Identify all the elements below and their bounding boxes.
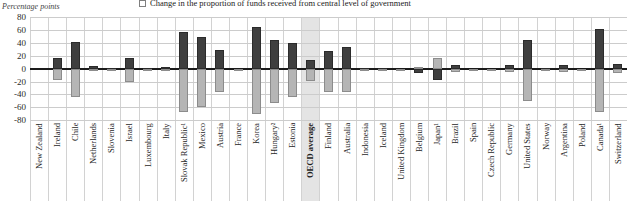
bar-light-series-italy bbox=[161, 69, 170, 71]
bar-dark-series-canada- bbox=[595, 29, 604, 68]
x-axis-label-italy: Italy bbox=[157, 123, 175, 200]
x-axis-label-ireland: Ireland bbox=[48, 123, 66, 200]
x-axis-label-slovenia: Slovenia bbox=[102, 123, 120, 200]
y-axis-tick-label: -80 bbox=[0, 115, 26, 125]
bar-light-series-united-kingdom bbox=[396, 69, 405, 71]
x-axis-label-united-kingdom: United Kingdom bbox=[392, 123, 410, 200]
y-axis-tick-label: 0 bbox=[0, 64, 26, 74]
bar-light-series-korea bbox=[252, 69, 261, 114]
bar-dark-series-chile bbox=[71, 42, 80, 68]
x-axis-label-united-states: United States bbox=[518, 123, 536, 200]
bar-light-series-canada- bbox=[595, 69, 604, 112]
y-axis-tick-label: -60 bbox=[0, 102, 26, 112]
bar-dark-series-hungary- bbox=[270, 40, 279, 69]
x-axis-label-switzerland: Switzerland bbox=[609, 123, 627, 200]
bar-dark-series-ireland bbox=[53, 58, 62, 68]
horizontal-gridline bbox=[30, 120, 627, 121]
legend-label: Change in the proportion of funds receiv… bbox=[150, 0, 411, 8]
bar-light-series-hungary- bbox=[270, 69, 279, 103]
chart-screenshot: Percentage points Change in the proporti… bbox=[0, 0, 627, 201]
bar-light-series-luxembourg bbox=[143, 69, 152, 71]
legend-swatch-icon bbox=[139, 0, 146, 7]
x-axis-label-israel: Israel bbox=[120, 123, 138, 200]
bar-light-series-united-states bbox=[523, 69, 532, 101]
bar-light-series-finland bbox=[324, 69, 333, 92]
bar-dark-series-oecd-average bbox=[306, 60, 315, 69]
bar-light-series-slovak-republic- bbox=[179, 69, 188, 112]
bar-light-series-netherlands bbox=[89, 69, 98, 72]
bar-light-series-france bbox=[234, 69, 243, 71]
x-axis-label-australia: Australia bbox=[338, 123, 356, 200]
x-axis-label-mexico: Mexico bbox=[193, 123, 211, 200]
bar-light-series-brazil bbox=[451, 69, 460, 73]
x-axis-label-indonesia: Indonesia bbox=[356, 123, 374, 200]
bar-light-series-estonia bbox=[288, 69, 297, 97]
x-axis-label-belgium: Belgium bbox=[410, 123, 428, 200]
bar-light-series-austria bbox=[215, 69, 224, 92]
x-axis-label-canada-: Canada¹ bbox=[591, 123, 609, 200]
x-axis-label-new-zealand: New Zealand bbox=[30, 123, 48, 200]
x-axis-label-luxembourg: Luxembourg bbox=[139, 123, 157, 200]
bar-light-series-oecd-average bbox=[306, 69, 315, 81]
bar-light-series-ireland bbox=[53, 69, 62, 81]
bar-light-series-poland bbox=[577, 69, 586, 71]
bar-light-series-norway bbox=[541, 69, 550, 71]
x-axis-label-estonia: Estonia bbox=[283, 123, 301, 200]
bar-light-series-japan- bbox=[433, 58, 442, 69]
x-axis-label-korea: Korea bbox=[247, 123, 265, 200]
horizontal-gridline bbox=[30, 17, 627, 18]
x-axis-label-japan-: Japan¹ bbox=[428, 123, 446, 200]
horizontal-gridline bbox=[30, 43, 627, 44]
x-axis-label-hungary-: Hungary² bbox=[265, 123, 283, 200]
bar-light-series-germany bbox=[505, 69, 514, 73]
bar-light-series-spain bbox=[469, 69, 478, 71]
bar-dark-series-australia bbox=[342, 47, 351, 69]
y-axis-tick-label: 80 bbox=[0, 12, 26, 22]
x-axis-label-brazil: Brazil bbox=[446, 123, 464, 200]
bar-dark-series-korea bbox=[252, 27, 261, 69]
x-axis-label-france: France bbox=[229, 123, 247, 200]
y-axis-tick-label: 40 bbox=[0, 38, 26, 48]
chart-legend: Change in the proportion of funds receiv… bbox=[139, 0, 411, 8]
x-axis-label-argentina: Argentina bbox=[555, 123, 573, 200]
x-axis-label-poland: Poland bbox=[573, 123, 591, 200]
bar-light-series-israel bbox=[125, 69, 134, 83]
bar-dark-series-japan- bbox=[433, 69, 442, 80]
x-axis-label-slovak-republic-: Slovak Republic¹ bbox=[175, 123, 193, 200]
bar-light-series-slovenia bbox=[107, 69, 116, 71]
x-axis-label-finland: Finland bbox=[319, 123, 337, 200]
bar-light-series-indonesia bbox=[360, 69, 369, 71]
y-axis-tick-label: -20 bbox=[0, 77, 26, 87]
y-axis-tick-label: 20 bbox=[0, 51, 26, 61]
x-axis-label-chile: Chile bbox=[66, 123, 84, 200]
x-axis-label-czech-republic: Czech Republic bbox=[482, 123, 500, 200]
horizontal-gridline bbox=[30, 30, 627, 31]
bar-light-series-australia bbox=[342, 69, 351, 92]
x-axis-label-austria: Austria bbox=[211, 123, 229, 200]
x-axis-label-iceland: Iceland bbox=[374, 123, 392, 200]
bar-light-series-iceland bbox=[378, 69, 387, 71]
horizontal-gridline bbox=[30, 107, 627, 108]
bar-dark-series-mexico bbox=[197, 37, 206, 69]
x-axis-label-spain: Spain bbox=[464, 123, 482, 200]
x-axis-label-germany: Germany bbox=[500, 123, 518, 200]
bar-light-series-mexico bbox=[197, 69, 206, 107]
bar-light-series-chile bbox=[71, 69, 80, 97]
bar-dark-series-united-states bbox=[523, 40, 532, 68]
bar-light-series-czech-republic bbox=[487, 69, 496, 71]
y-axis-units-label: Percentage points bbox=[2, 2, 60, 11]
x-axis-label-netherlands: Netherlands bbox=[84, 123, 102, 200]
y-axis-tick-label: 60 bbox=[0, 25, 26, 35]
bar-light-series-argentina bbox=[559, 69, 568, 73]
x-axis-label-norway: Norway bbox=[537, 123, 555, 200]
bar-dark-series-slovak-republic- bbox=[179, 32, 188, 68]
bar-dark-series-finland bbox=[324, 51, 333, 69]
bar-dark-series-israel bbox=[125, 58, 134, 69]
x-axis-label-oecd-average: OECD average bbox=[301, 123, 319, 200]
horizontal-gridline bbox=[30, 94, 627, 95]
bar-dark-series-austria bbox=[215, 50, 224, 69]
bar-light-series-belgium bbox=[414, 67, 423, 69]
y-axis-tick-label: -40 bbox=[0, 89, 26, 99]
bar-dark-series-estonia bbox=[288, 43, 297, 69]
bar-light-series-switzerland bbox=[613, 69, 622, 74]
